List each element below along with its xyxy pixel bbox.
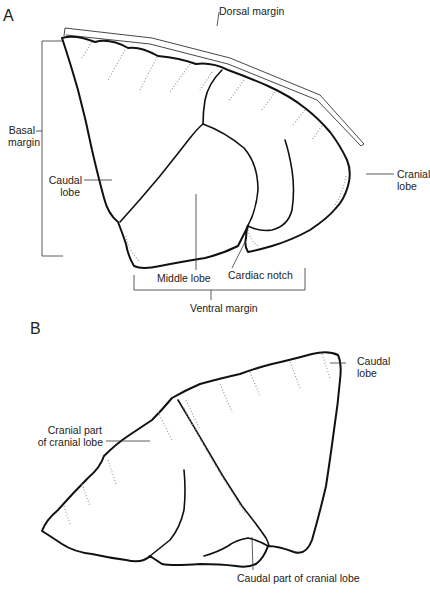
panel-b-drawing	[42, 352, 341, 566]
caudal-lobe-label-a-line1: Caudal	[40, 174, 82, 186]
caudal-lobe-label-b-line2: lobe	[357, 367, 377, 379]
basal-margin-label-line1: Basal	[0, 124, 35, 136]
middle-lobe-label: Middle lobe	[157, 272, 211, 284]
lung-b-outline	[42, 352, 341, 566]
panel-b-letter: B	[30, 320, 41, 338]
cranial-lobe-label-a-line2: lobe	[397, 180, 417, 192]
cardiac-notch-label: Cardiac notch	[228, 269, 293, 281]
lung-a-outline	[62, 37, 350, 268]
basal-margin-label-line2: margin	[0, 136, 40, 148]
cranial-part-label-line1: Cranial part	[20, 424, 102, 436]
panel-a-drawing	[62, 28, 364, 268]
basal-margin-bracket	[42, 41, 63, 256]
panel-a-letter: A	[3, 7, 14, 25]
dorsal-margin-label: Dorsal margin	[219, 5, 284, 17]
cranial-lobe-label-a-line1: Cranial	[397, 168, 430, 180]
cranial-part-label-line2: of cranial lobe	[0, 436, 103, 448]
caudal-lobe-label-a-line2: lobe	[40, 186, 80, 198]
ventral-margin-label: Ventral margin	[190, 302, 258, 314]
caudal-part-label: Caudal part of cranial lobe	[237, 572, 360, 584]
caudal-lobe-label-b-line1: Caudal	[357, 355, 390, 367]
